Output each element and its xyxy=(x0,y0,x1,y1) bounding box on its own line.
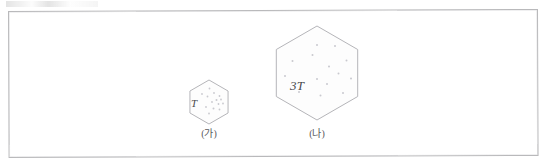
gas-particle xyxy=(334,45,336,47)
gas-particle xyxy=(211,101,213,103)
gas-container-b xyxy=(266,22,368,124)
gas-particle xyxy=(342,92,344,94)
gas-particle xyxy=(209,87,211,89)
gas-particle xyxy=(213,92,215,94)
gas-particle xyxy=(216,99,218,101)
gas-particle xyxy=(201,93,203,95)
gas-particle xyxy=(292,60,294,62)
gas-particle xyxy=(284,75,286,77)
caption-a: (가) xyxy=(179,129,239,139)
gas-particle xyxy=(222,102,224,104)
gas-particle xyxy=(219,108,221,110)
gas-particle xyxy=(220,98,222,100)
temperature-label-a: T xyxy=(191,98,197,109)
gas-particle xyxy=(208,112,210,114)
gas-particle xyxy=(350,78,352,80)
hexagon-outline xyxy=(276,26,357,120)
gas-particle xyxy=(218,103,220,105)
gas-particle xyxy=(326,83,328,85)
gas-particle xyxy=(205,106,207,108)
gas-particle xyxy=(338,73,340,75)
gas-particle xyxy=(207,95,209,97)
gas-particle xyxy=(219,95,221,97)
temperature-label-b: 3T xyxy=(290,79,304,92)
figure-root: T(가)3T(나) xyxy=(0,0,547,168)
gas-particle xyxy=(320,95,322,97)
gas-particle xyxy=(346,60,348,62)
gas-particle xyxy=(312,54,314,56)
gas-particle xyxy=(328,66,330,68)
figure-stage: T(가)3T(나) xyxy=(0,0,547,168)
gas-particle xyxy=(213,107,215,109)
gas-particle xyxy=(316,44,318,46)
caption-b: (나) xyxy=(287,129,347,139)
gas-particle xyxy=(316,78,318,80)
